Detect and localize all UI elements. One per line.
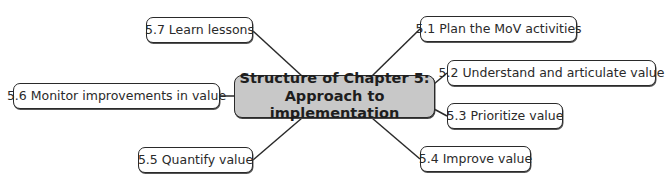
node-label: 5.7 Learn lessons <box>145 24 254 37</box>
node-5-2-understand[interactable]: 5.2 Understand and articulate value <box>447 60 656 86</box>
central-topic-line2: Approach to implementation <box>235 88 434 123</box>
node-5-4-improve[interactable]: 5.4 Improve value <box>420 146 531 172</box>
node-5-5-quantify[interactable]: 5.5 Quantify value <box>138 147 253 173</box>
link-5-3 <box>434 109 447 116</box>
node-label: 5.3 Prioritize value <box>447 110 564 123</box>
link-5-4 <box>372 118 420 159</box>
node-label: 5.6 Monitor improvements in value <box>7 90 226 103</box>
node-5-1-plan[interactable]: 5.1 Plan the MoV activities <box>420 16 577 42</box>
node-label: 5.1 Plan the MoV activities <box>415 23 581 36</box>
link-5-1 <box>372 29 420 76</box>
node-label: 5.5 Quantify value <box>138 154 253 167</box>
node-label: 5.2 Understand and articulate value <box>439 67 665 80</box>
node-5-7-learn[interactable]: 5.7 Learn lessons <box>146 17 253 43</box>
link-5-7 <box>253 31 302 76</box>
central-topic[interactable]: Structure of Chapter 5: Approach to impl… <box>234 75 435 118</box>
node-5-3-prioritize[interactable]: 5.3 Prioritize value <box>447 103 563 129</box>
node-label: 5.4 Improve value <box>419 153 532 166</box>
central-topic-line1: Structure of Chapter 5: <box>239 70 429 87</box>
node-5-6-monitor[interactable]: 5.6 Monitor improvements in value <box>13 83 220 109</box>
link-5-5 <box>253 118 302 160</box>
